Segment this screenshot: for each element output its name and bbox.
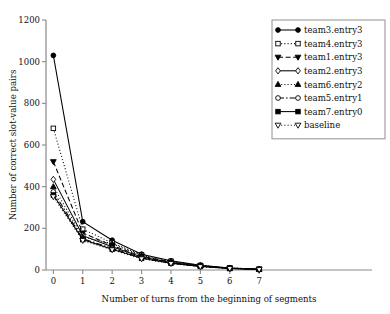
series-line-team4.entry3 — [53, 128, 259, 269]
legend-marker-team5.entry1 — [276, 96, 281, 101]
data-point-team3.entry3 — [80, 219, 85, 224]
x-tick-label: 0 — [51, 276, 56, 286]
y-tick-label: 800 — [24, 98, 40, 108]
x-tick-label: 7 — [256, 276, 261, 286]
series-line-team2.entry3 — [53, 179, 259, 269]
legend-label-team7.entry0[interactable]: team7.entry0 — [304, 107, 363, 117]
x-tick-label: 5 — [198, 276, 203, 286]
legend-marker-team5.entry1 — [296, 96, 301, 101]
x-tick-label: 4 — [168, 276, 173, 286]
data-point-team1.entry3 — [50, 160, 56, 165]
legend-label-team1.entry3[interactable]: team1.entry3 — [304, 52, 363, 62]
legend-label-team4.entry3[interactable]: team4.entry3 — [304, 39, 363, 49]
y-tick-label: 400 — [24, 182, 40, 192]
legend-label-team3.entry3[interactable]: team3.entry3 — [304, 25, 363, 35]
legend-marker-team3.entry3 — [276, 28, 281, 33]
line-chart: 02004006008001000120001234567Number of t… — [0, 0, 390, 314]
y-tick-label: 1000 — [18, 57, 40, 67]
x-axis-title: Number of turns from the beginning of se… — [102, 294, 317, 304]
y-tick-label: 0 — [35, 265, 40, 275]
series-line-team1.entry3 — [53, 162, 259, 270]
legend-marker-team7.entry0 — [276, 109, 281, 114]
legend-marker-team3.entry3 — [296, 28, 301, 33]
legend-label-team6.entry2[interactable]: team6.entry2 — [304, 80, 363, 90]
legend-marker-team4.entry3 — [296, 41, 301, 46]
x-tick-label: 1 — [80, 276, 85, 286]
x-tick-label: 3 — [139, 276, 144, 286]
x-tick-label: 2 — [109, 276, 114, 286]
data-point-team4.entry3 — [51, 126, 56, 131]
legend-marker-team4.entry3 — [276, 41, 281, 46]
y-axis-title: Number of correct slot-value pairs — [8, 70, 18, 221]
y-tick-label: 200 — [24, 223, 40, 233]
data-point-team6.entry2 — [50, 184, 56, 189]
legend-marker-team7.entry0 — [296, 109, 301, 114]
legend-label-team5.entry1[interactable]: team5.entry1 — [304, 93, 363, 103]
y-tick-label: 1200 — [18, 15, 40, 25]
legend-label-baseline[interactable]: baseline — [304, 120, 340, 130]
data-point-team3.entry3 — [51, 53, 56, 58]
legend-label-team2.entry3[interactable]: team2.entry3 — [304, 66, 363, 76]
x-tick-label: 6 — [227, 276, 232, 286]
y-tick-label: 600 — [24, 140, 40, 150]
chart-figure: 02004006008001000120001234567Number of t… — [0, 0, 390, 314]
